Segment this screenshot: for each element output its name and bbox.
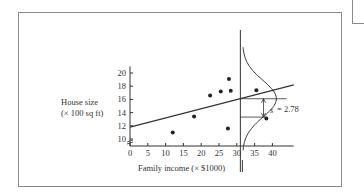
y-tick-label: 12 [118, 121, 127, 131]
data-point [264, 117, 268, 121]
sd-annotation: = 2.78 [277, 104, 299, 114]
x-tick-label: 25 [215, 148, 224, 158]
x-tick-label: 0 [128, 148, 132, 158]
x-axis-label: Family income (× $1000) [138, 163, 225, 173]
data-point [192, 115, 196, 119]
y-axis-label-line1: House size [61, 97, 98, 107]
x-tick-label: 35 [250, 148, 259, 158]
data-point [226, 126, 230, 130]
data-point [171, 130, 175, 134]
y-tick-label: 14 [118, 108, 127, 118]
x-tick-label: 20 [197, 148, 206, 158]
y-tick-label: 16 [118, 94, 127, 104]
data-point [227, 77, 231, 81]
tick-labels: 1012141618200510152025303540 [118, 68, 277, 158]
y-tick-label: 20 [118, 68, 127, 78]
x-tick-label: 40 [268, 148, 277, 158]
x-tick-label: 30 [233, 148, 242, 158]
data-point [208, 93, 212, 97]
data-point [219, 89, 223, 93]
x-tick-label: 10 [161, 148, 170, 158]
data-point [254, 88, 258, 92]
x-tick-label: 5 [146, 148, 150, 158]
y-axis-label-line2: (× 100 sq ft) [61, 108, 103, 118]
y-tick-label: 18 [118, 81, 127, 91]
x-tick-label: 15 [179, 148, 188, 158]
y-tick-label: 10 [118, 134, 127, 144]
data-point [229, 89, 233, 93]
